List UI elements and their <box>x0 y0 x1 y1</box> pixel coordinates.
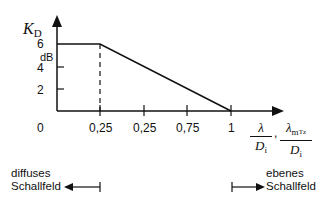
y-tick-label-2: 2 <box>37 84 44 97</box>
fraction-1-den-subscript: i <box>264 145 267 155</box>
x-axis-label-fraction-2: λmTz Di <box>280 121 312 162</box>
x-axis-arrowhead-icon <box>272 106 284 116</box>
diffuse-field-line1: diffuses <box>11 167 61 180</box>
y-axis-symbol: K <box>23 20 34 37</box>
diffuse-field-label: diffuses Schallfeld <box>11 167 61 193</box>
plane-field-line1: ebenes <box>266 167 316 180</box>
plane-field-label: ebenes Schallfeld <box>266 167 316 193</box>
kd-curve <box>57 44 231 111</box>
x-tick-label-050: 0,25 <box>133 122 156 135</box>
y-tick-label-6: 6 <box>37 38 44 51</box>
y-tick-label-4: 4 <box>37 62 44 75</box>
y-axis-arrowhead-icon <box>52 15 62 27</box>
fraction-1-denominator: Di <box>250 137 272 158</box>
x-tick-label-0: 0 <box>37 122 44 135</box>
fraction-2-num-subscript: m <box>292 127 299 137</box>
fraction-1-numerator: λ <box>250 121 272 137</box>
x-tick-label-1: 1 <box>228 122 235 135</box>
x-axis-label-fraction-1: λ Di <box>250 121 272 158</box>
plane-field-line2: Schallfeld <box>266 180 316 193</box>
x-tick-label-025: 0,25 <box>89 122 112 135</box>
x-tick-label-075: 0,75 <box>176 122 199 135</box>
diffuse-region-arrowhead-icon <box>64 183 73 191</box>
fraction-2-num-subsubscript: Tz <box>299 128 306 136</box>
fraction-2-numerator: λmTz <box>280 121 312 141</box>
fraction-2-den-subscript: i <box>299 149 302 159</box>
diffuse-field-line2: Schallfeld <box>11 180 61 193</box>
x-axis-label-separator: , <box>274 127 277 140</box>
plane-region-arrowhead-icon <box>256 183 265 191</box>
fraction-2-denominator: Di <box>280 141 312 162</box>
